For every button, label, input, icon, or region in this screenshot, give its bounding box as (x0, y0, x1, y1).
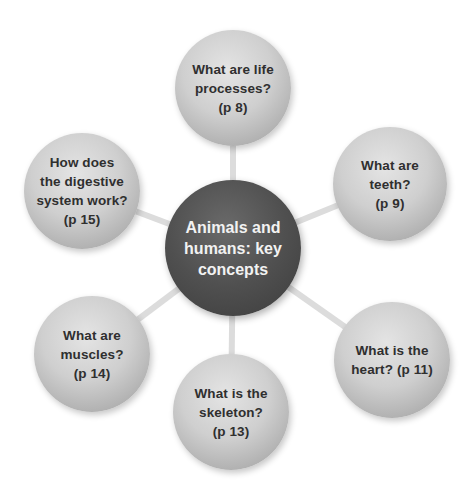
node-skeleton: What is the skeleton? (p 13) (173, 354, 289, 470)
node-life-processes: What are life processes? (p 8) (175, 30, 291, 146)
hub-node-animals-and-humans: Animals and humans: key concepts (165, 180, 301, 316)
node-label: What is the skeleton? (p 13) (188, 384, 273, 441)
node-digestive-system: How does the digestive system work? (p 1… (24, 133, 140, 249)
hub-label: Animals and humans: key concepts (178, 217, 288, 280)
node-label: What are life processes? (p 8) (186, 60, 280, 117)
node-label: What are muscles? (p 14) (54, 326, 129, 383)
node-heart: What is the heart? (p 11) (334, 302, 450, 418)
node-label: How does the digestive system work? (p 1… (30, 153, 133, 229)
node-muscles: What are muscles? (p 14) (34, 296, 150, 412)
node-label: What are teeth? (p 9) (355, 156, 425, 213)
concept-map: Animals and humans: key concepts What ar… (0, 0, 474, 496)
node-teeth: What are teeth? (p 9) (333, 127, 447, 241)
node-label: What is the heart? (p 11) (345, 341, 439, 379)
